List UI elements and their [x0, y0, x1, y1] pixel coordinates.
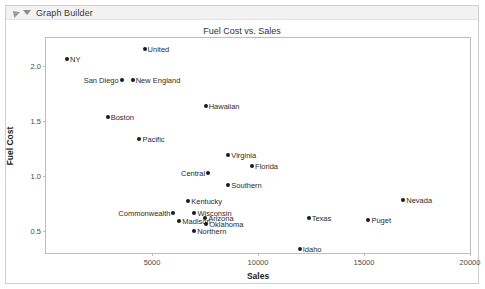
scatter-point-label: Kentucky [191, 198, 222, 206]
scatter-point[interactable] [131, 78, 135, 82]
scatter-point-label: United [148, 46, 170, 54]
scatter-point[interactable] [120, 78, 124, 82]
chevron-down-icon[interactable] [23, 10, 31, 15]
scatter-point-label: Pacific [142, 136, 164, 144]
scatter-point[interactable] [250, 164, 254, 168]
scatter-point[interactable] [226, 153, 230, 157]
scatter-point[interactable] [203, 216, 207, 220]
chart-title: Fuel Cost vs. Sales [6, 26, 478, 36]
graph-builder-panel: Graph Builder Fuel Cost vs. Sales Fuel C… [5, 5, 479, 284]
scatter-point[interactable] [307, 216, 311, 220]
x-axis-tick-mark [470, 253, 471, 256]
scatter-point[interactable] [298, 247, 302, 251]
scatter-point-label: Nevada [406, 197, 432, 205]
panel-titlebar[interactable]: Graph Builder [6, 6, 478, 20]
x-axis-tick-mark [364, 253, 365, 256]
x-axis-tick-label: 20000 [460, 258, 481, 267]
scatter-point[interactable] [186, 199, 190, 203]
triangle-collapse-icon[interactable] [10, 8, 20, 18]
scatter-point[interactable] [192, 211, 196, 215]
x-axis-tick-label: 10000 [248, 258, 269, 267]
x-axis-title: Sales [45, 271, 471, 281]
scatter-point[interactable] [171, 211, 175, 215]
scatter-point-label: Boston [111, 114, 134, 122]
x-axis-tick-label: 5000 [144, 258, 161, 267]
scatter-point-label: Idaho [303, 245, 322, 253]
scatter-point[interactable] [192, 229, 196, 233]
scatter-point[interactable] [65, 57, 69, 61]
scatter-point[interactable] [226, 183, 230, 187]
y-axis-title: Fuel Cost [4, 37, 16, 254]
scatter-point[interactable] [204, 104, 208, 108]
scatter-point[interactable] [401, 198, 405, 202]
y-axis-tick-label: 0.5 [31, 226, 46, 235]
x-axis-tick-mark [258, 253, 259, 256]
scatter-point-label: Florida [255, 162, 278, 170]
panel-title: Graph Builder [36, 8, 93, 18]
scatter-point-label: Northern [197, 227, 226, 235]
scatter-point-label: Virginia [231, 151, 256, 159]
scatter-point[interactable] [143, 47, 147, 51]
y-axis-tick-label: 1.0 [31, 171, 46, 180]
x-axis-tick-mark [152, 253, 153, 256]
scatter-point-label: Commonwealth [118, 210, 170, 218]
scatter-point[interactable] [177, 219, 181, 223]
x-axis-tick-label: 15000 [354, 258, 375, 267]
chart-container: Fuel Cost vs. Sales Fuel Cost 0.51.01.52… [6, 20, 478, 284]
scatter-point[interactable] [106, 115, 110, 119]
scatter-point-label: Texas [312, 214, 332, 222]
scatter-point-label: Hawaiian [209, 103, 240, 111]
scatter-point-label: San Diego [84, 76, 119, 84]
y-axis-tick-label: 1.5 [31, 116, 46, 125]
scatter-plot-area[interactable]: 0.51.01.52.05000100001500020000NYUnitedS… [45, 37, 471, 254]
scatter-point[interactable] [137, 137, 141, 141]
scatter-point[interactable] [366, 218, 370, 222]
scatter-point[interactable] [206, 171, 210, 175]
screenshot-root: Graph Builder Fuel Cost vs. Sales Fuel C… [0, 0, 485, 289]
scatter-point-label: Central [181, 169, 205, 177]
scatter-point-label: Southern [231, 181, 261, 189]
scatter-point-label: NY [70, 55, 80, 63]
scatter-point-label: Puget [371, 216, 391, 224]
scatter-point-label: New England [136, 76, 181, 84]
y-axis-tick-label: 2.0 [31, 61, 46, 70]
